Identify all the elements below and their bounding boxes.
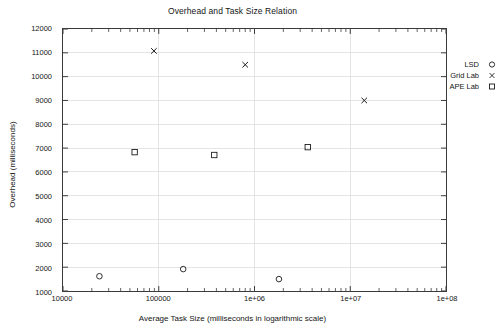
y-axis-tick-label: 12000 bbox=[31, 24, 52, 33]
y-axis-tick-label: 2000 bbox=[35, 264, 52, 273]
y-axis-tick-label: 8000 bbox=[35, 120, 52, 129]
legend-key-square-icon bbox=[485, 81, 499, 92]
legend-label-ape-lab: APE Lab bbox=[449, 81, 479, 92]
y-axis-tick-label: 11000 bbox=[32, 48, 52, 57]
plot-area: LSD Grid Lab APE Lab bbox=[62, 28, 447, 292]
y-axis-tick-label: 1000 bbox=[35, 288, 52, 297]
chart-legend: LSD Grid Lab APE Lab bbox=[393, 59, 500, 92]
y-axis-tick-label: 7000 bbox=[35, 144, 52, 153]
x-axis-tick-labels: 100001000001e+061e+071e+08 bbox=[62, 294, 447, 308]
legend-key-circle-icon bbox=[485, 59, 499, 70]
chart-title: Overhead and Task Size Relation bbox=[0, 6, 465, 16]
x-axis-tick-label: 10000 bbox=[52, 294, 73, 303]
legend-item-lsd: LSD bbox=[393, 59, 500, 70]
legend-key-cross-icon bbox=[485, 70, 499, 81]
y-axis-tick-label: 5000 bbox=[35, 192, 52, 201]
legend-item-grid-lab: Grid Lab bbox=[393, 70, 500, 81]
y-axis-tick-label: 4000 bbox=[35, 216, 52, 225]
data-markers-layer bbox=[63, 29, 446, 291]
y-axis-tick-label: 9000 bbox=[35, 96, 52, 105]
x-axis-tick-label: 1e+07 bbox=[340, 294, 361, 303]
legend-label-grid-lab: Grid Lab bbox=[450, 70, 479, 81]
y-axis-tick-label: 3000 bbox=[35, 240, 52, 249]
legend-item-ape-lab: APE Lab bbox=[393, 81, 500, 92]
y-axis-tick-label: 10000 bbox=[31, 72, 52, 81]
x-axis-tick-label: 1e+08 bbox=[436, 294, 457, 303]
y-axis-title: Overhead (milliseconds) bbox=[8, 100, 17, 230]
y-axis-tick-label: 6000 bbox=[35, 168, 52, 177]
x-axis-tick-label: 1e+06 bbox=[244, 294, 265, 303]
x-axis-tick-label: 100000 bbox=[146, 294, 171, 303]
x-axis-title: Average Task Size (milliseconds in logar… bbox=[0, 314, 465, 323]
legend-label-lsd: LSD bbox=[464, 59, 479, 70]
